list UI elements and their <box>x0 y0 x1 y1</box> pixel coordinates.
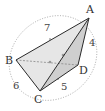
sphere-center-point <box>49 61 52 64</box>
edge-length-cd: 5 <box>61 81 67 92</box>
tetrahedron-diagram: A B C D 7 4 6 5 <box>0 0 105 111</box>
edge-length-ab: 7 <box>44 22 50 33</box>
vertex-label-d: D <box>79 64 88 77</box>
edge-length-bc: 6 <box>13 80 19 91</box>
vertex-label-b: B <box>5 54 13 67</box>
vertex-label-c: C <box>34 93 42 106</box>
edge-length-ad: 4 <box>89 37 95 48</box>
vertex-label-a: A <box>85 3 95 16</box>
